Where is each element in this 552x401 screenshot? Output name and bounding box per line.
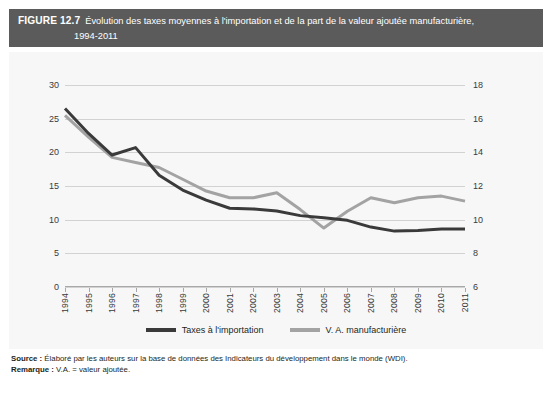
x-axis-tick-label: 1995 (84, 293, 94, 313)
x-axis-tick-mark (394, 288, 395, 292)
right-axis-tick-label: 12 (473, 181, 483, 191)
right-axis-tick-label: 16 (473, 114, 483, 124)
x-axis-tick-mark (347, 288, 348, 292)
x-axis-tick-label: 2006 (342, 293, 352, 313)
x-axis-tick-label: 2001 (225, 293, 235, 313)
figure-title-line1: Évolution des taxes moyennes à l'importa… (85, 16, 474, 26)
x-axis-tick-label: 2000 (201, 293, 211, 313)
x-axis-tick-mark (136, 288, 137, 292)
right-axis-tick-label: 10 (473, 215, 483, 225)
x-axis-tick-label: 1997 (131, 293, 141, 313)
remark-label: Remarque : (11, 365, 54, 374)
x-axis-tick-mark (89, 288, 90, 292)
legend-swatch-taxes (146, 328, 176, 331)
x-axis-tick-label: 1998 (154, 293, 164, 313)
figure-header-text: FIGURE 12.7Évolution des taxes moyennes … (18, 14, 535, 43)
right-axis-tick-label: 18 (473, 80, 483, 90)
remark-text: V.A. = valeur ajoutée. (54, 365, 130, 374)
x-axis-tick-mark (159, 288, 160, 292)
x-axis-tick-label: 2002 (248, 293, 258, 313)
x-axis-tick-mark (277, 288, 278, 292)
source-label: Source : (11, 354, 42, 363)
x-axis-tick-label: 2010 (436, 293, 446, 313)
left-axis-tick-label: 20 (49, 147, 59, 157)
left-axis-tick-label: 25 (49, 114, 59, 124)
right-axis-tick-label: 8 (473, 248, 478, 258)
figure-notes: Source : Élaboré par les auteurs sur la … (11, 353, 545, 375)
x-axis-tick-mark (206, 288, 207, 292)
left-axis-tick-label: 30 (49, 80, 59, 90)
x-axis-tick-mark (418, 288, 419, 292)
x-axis-tick-label: 2004 (295, 293, 305, 313)
series-line (65, 109, 465, 232)
chart-legend: Taxes à l'importation V. A. manufacturiè… (9, 325, 543, 335)
right-axis-tick-label: 6 (473, 282, 478, 292)
legend-label-taxes: Taxes à l'importation (182, 325, 264, 335)
x-axis-tick-mark (324, 288, 325, 292)
legend-swatch-va (290, 328, 320, 331)
legend-label-va: V. A. manufacturière (326, 325, 407, 335)
source-note: Source : Élaboré par les auteurs sur la … (11, 353, 545, 364)
left-axis-tick-label: 10 (49, 215, 59, 225)
x-axis-tick-label: 2009 (413, 293, 423, 313)
figure-number: FIGURE 12.7 (18, 15, 80, 26)
remark-note: Remarque : V.A. = valeur ajoutée. (11, 364, 545, 375)
x-axis-tick-label: 2005 (319, 293, 329, 313)
left-axis-labels: 051015202530 (29, 85, 59, 287)
right-axis-labels: 681012141618 (473, 85, 503, 287)
x-axis-tick-mark (371, 288, 372, 292)
figure-container: FIGURE 12.7Évolution des taxes moyennes … (0, 0, 552, 401)
x-axis-tick-mark (65, 288, 66, 292)
left-axis-tick-label: 15 (49, 181, 59, 191)
right-axis-tick-label: 14 (473, 147, 483, 157)
figure-header-banner: FIGURE 12.7Évolution des taxes moyennes … (9, 9, 543, 47)
legend-item-va: V. A. manufacturière (290, 325, 407, 335)
x-axis-tick-label: 1999 (178, 293, 188, 313)
left-axis-tick-label: 0 (54, 282, 59, 292)
x-axis-tick-label: 1994 (60, 293, 70, 313)
x-axis-tick-mark (300, 288, 301, 292)
x-axis-tick-label: 2011 (460, 293, 470, 312)
figure-title-line2: 1994-2011 (74, 30, 535, 44)
left-axis-tick-label: 5 (54, 248, 59, 258)
series-lines (65, 85, 465, 287)
x-axis-tick-mark (230, 288, 231, 292)
plot-area (65, 85, 465, 287)
x-axis-tick-mark (183, 288, 184, 292)
x-axis-tick-label: 1996 (107, 293, 117, 313)
x-axis-tick-mark (441, 288, 442, 292)
x-axis-tick-label: 2008 (389, 293, 399, 313)
source-text: Élaboré par les auteurs sur la base de d… (42, 354, 407, 363)
x-axis-tick-label: 2007 (366, 293, 376, 313)
x-axis-tick-mark (253, 288, 254, 292)
chart-panel: 051015202530 681012141618 19941995199619… (9, 52, 543, 349)
x-axis-tick-mark (465, 288, 466, 292)
x-axis-tick-mark (112, 288, 113, 292)
legend-item-taxes: Taxes à l'importation (146, 325, 264, 335)
x-axis-tick-label: 2003 (272, 293, 282, 313)
